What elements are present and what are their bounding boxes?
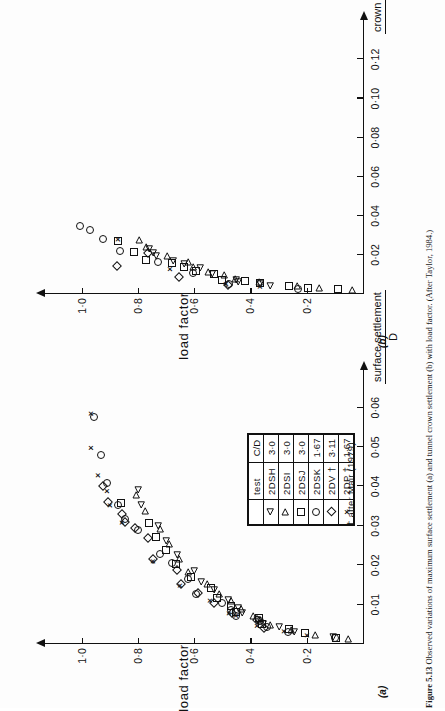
y-tick-label: 0·8: [131, 648, 143, 674]
marker-circle: [167, 559, 175, 567]
marker-cross: ×: [166, 264, 174, 272]
marker-cross: ×: [205, 596, 213, 604]
legend-symbol-header: [248, 499, 263, 524]
marker-cross: ×: [149, 557, 157, 565]
legend-header-cd: C/D: [248, 434, 263, 462]
legend-symbol-triangle-left: [263, 499, 278, 524]
legend-cd-value: 3·0: [263, 434, 278, 462]
legend-test-name: 2DSH: [263, 462, 278, 499]
legend-footnote: † after Mair (1979): [345, 442, 356, 526]
panel-label-a: (a): [377, 685, 388, 697]
marker-square: [180, 262, 188, 270]
legend-row: 2DSK1·67: [308, 434, 323, 524]
legend-test-name: 2DSI: [278, 462, 293, 499]
marker-triangle-right: [156, 524, 164, 532]
y-tick: [137, 288, 138, 294]
y-tick-label: 0·2: [300, 648, 312, 674]
caption-text: Observed variations of maximum surface s…: [424, 230, 434, 665]
marker-cross: ×: [302, 631, 310, 639]
plot-a: (a)0·010·020·030·040·050·060·20·40·60·81…: [33, 350, 413, 702]
legend-cd-value: 1·67: [308, 434, 323, 462]
x-tick: [357, 58, 363, 59]
marker-circle: [76, 221, 84, 229]
legend-test-name: 2DSJ: [293, 462, 308, 499]
legend-row: 2DV †3·11: [323, 434, 338, 524]
x-tick-label: 0·04: [369, 204, 381, 226]
legend-cd-value: 3·11: [323, 434, 338, 462]
marker-square: [207, 584, 215, 592]
marker-square: [145, 518, 153, 526]
x-tick: [357, 97, 363, 98]
marker-cross: ×: [86, 409, 94, 417]
marker-circle: [114, 501, 122, 509]
x-axis-arrow-icon: [359, 11, 367, 20]
y-tick: [81, 638, 82, 644]
x-tick: [357, 564, 363, 565]
x-tick-label: 0·02: [369, 243, 381, 265]
legend-table: testC/D2DSH3·02DSI3·02DSJ3·02DSK1·672DV …: [247, 432, 355, 525]
y-tick: [81, 288, 82, 294]
marker-circle: [85, 226, 93, 234]
x-tick-label: 0·10: [369, 87, 381, 109]
marker-triangle-right: [140, 506, 148, 514]
x-tick-label: 0·12: [369, 48, 381, 70]
marker-cross: ×: [114, 235, 122, 243]
x-tick: [357, 136, 363, 137]
legend-cd-value: 3·0: [293, 434, 308, 462]
y-axis-line: [45, 642, 363, 643]
marker-triangle-right: [347, 285, 355, 293]
x-tick-label: 0·01: [369, 593, 381, 615]
legend-test-name: 2DV †: [323, 462, 338, 499]
y-axis-title: load factor: [175, 292, 190, 359]
marker-circle: [294, 284, 302, 292]
marker-triangle-right: [311, 631, 319, 639]
x-axis-line: [363, 370, 364, 644]
marker-square: [209, 270, 217, 278]
marker-circle: [330, 634, 338, 642]
marker-diamond: [111, 260, 121, 270]
legend-symbol-triangle-right: [278, 499, 293, 524]
marker-square: [333, 285, 341, 293]
y-tick-label: 0·8: [131, 298, 143, 324]
marker-square: [129, 247, 137, 255]
y-tick: [137, 638, 138, 644]
x-axis-line: [363, 20, 364, 294]
marker-square: [304, 283, 312, 291]
marker-cross: ×: [256, 282, 264, 290]
marker-cross: ×: [222, 279, 230, 287]
x-tick: [357, 214, 363, 215]
marker-circle: [188, 269, 196, 277]
marker-cross: ×: [225, 609, 233, 617]
marker-cross: ×: [280, 627, 288, 635]
x-tick: [357, 445, 363, 446]
y-axis-line: [45, 292, 363, 293]
marker-cross: ×: [102, 487, 110, 495]
marker-cross: ×: [105, 501, 113, 509]
y-tick-label: 0·4: [244, 298, 256, 324]
plot-b: (b)0·020·040·060·080·100·120·20·40·60·81…: [33, 2, 413, 350]
marker-triangle-right: [135, 235, 143, 243]
marker-triangle-right: [315, 284, 323, 292]
x-tick-label: 0·04: [369, 475, 381, 497]
x-tick-label: 0·06: [369, 396, 381, 418]
marker-cross: ×: [94, 471, 102, 479]
y-tick: [250, 638, 251, 644]
y-tick: [250, 288, 251, 294]
marker-cross: ×: [176, 581, 184, 589]
legend-row: 2DSH3·0: [263, 434, 278, 524]
marker-triangle-left: [266, 282, 274, 290]
x-tick: [357, 406, 363, 407]
x-axis-title-denominator: D: [385, 0, 399, 34]
x-tick: [357, 603, 363, 604]
marker-triangle-right: [132, 491, 140, 499]
figure-caption: Figure 5.13 Observed variations of maxim…: [417, 0, 441, 708]
marker-cross: ×: [118, 518, 126, 526]
legend-symbol-diamond: [323, 499, 338, 524]
x-tick: [357, 253, 363, 254]
x-tick-label: 0·05: [369, 436, 381, 458]
x-tick-label: 0·02: [369, 554, 381, 576]
legend-symbol-circle: [308, 499, 323, 524]
marker-triangle-right: [163, 251, 171, 259]
x-axis-title-numerator: crown settlement: [371, 0, 386, 34]
